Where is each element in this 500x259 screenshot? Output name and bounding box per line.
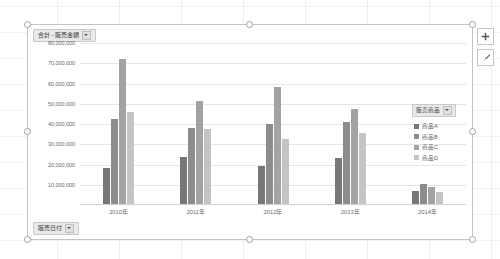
plot-canvas [80,43,466,205]
y-axis-tick-label: 40,000,000 [48,121,75,127]
y-axis-tick-label: 50,000,000 [48,101,75,107]
legend-field-label: 販売商品 [416,106,440,114]
bar-group [312,43,389,204]
legend-item[interactable]: 商品D [414,154,462,162]
bar[interactable] [103,168,110,204]
bar[interactable] [274,87,281,204]
bar[interactable] [343,122,350,205]
legend-swatch [414,145,419,150]
y-axis-tick-label: 70,000,000 [48,60,75,66]
plot-area: 10,000,00020,000,00030,000,00040,000,000… [33,43,466,217]
plus-icon [481,32,490,41]
y-axis-tick-label: 30,000,000 [48,141,75,147]
x-axis-tick-label: 2012年 [234,205,311,217]
bar[interactable] [204,129,211,204]
bar[interactable] [188,128,195,204]
bar[interactable] [111,119,118,204]
legend-swatch [414,124,419,129]
x-axis-tick-label: 2013年 [312,205,389,217]
bar[interactable] [436,192,443,204]
bar[interactable] [428,187,435,204]
y-axis-tick-label: 20,000,000 [48,162,75,168]
worksheet-canvas: 合計 - 販売金額 10,000,00020,000,00030,000,000… [0,0,500,259]
y-axis-labels: 10,000,00020,000,00030,000,00040,000,000… [33,43,78,205]
legend-item-label: 商品B [422,133,438,141]
legend: 販売商品 商品A商品B商品C商品D [412,98,462,164]
chevron-down-icon[interactable] [443,106,452,115]
legend-item-label: 商品A [422,122,438,130]
bar[interactable] [412,191,419,204]
chevron-down-icon[interactable] [82,31,91,40]
legend-item[interactable]: 商品A [414,122,462,130]
chart-elements-button[interactable] [477,28,494,45]
legend-items: 商品A商品B商品C商品D [412,122,462,162]
bar[interactable] [420,184,427,204]
chart-styles-button[interactable] [477,49,494,66]
chart-side-buttons [477,28,494,70]
bar-group [157,43,234,204]
bar[interactable] [119,59,126,204]
legend-item[interactable]: 商品B [414,133,462,141]
pivot-chart-object[interactable]: 合計 - 販売金額 10,000,00020,000,00030,000,000… [27,24,473,240]
axis-field-button[interactable]: 販売日付 [33,222,79,235]
bar-groups [80,43,466,204]
x-axis-tick-label: 2010年 [80,205,157,217]
legend-item[interactable]: 商品C [414,143,462,151]
y-axis-tick-label: 10,000,000 [48,182,75,188]
chevron-down-icon[interactable] [65,224,74,233]
bar[interactable] [266,124,273,205]
legend-item-label: 商品C [422,143,438,151]
bar-group [234,43,311,204]
value-field-label: 合計 - 販売金額 [38,31,79,40]
y-axis-tick-label: 60,000,000 [48,81,75,87]
bar[interactable] [335,158,342,204]
bar[interactable] [196,101,203,204]
x-axis-labels: 2010年2011年2012年2013年2014年 [80,205,466,217]
y-axis-tick-label: 80,000,000 [48,40,75,46]
bar-group [80,43,157,204]
bar[interactable] [282,139,289,204]
legend-field-button[interactable]: 販売商品 [412,104,456,117]
bar[interactable] [127,112,134,204]
brush-icon [481,53,491,63]
legend-swatch [414,134,419,139]
bar[interactable] [180,157,187,204]
legend-item-label: 商品D [422,154,438,162]
x-axis-tick-label: 2014年 [389,205,466,217]
x-axis-tick-label: 2011年 [157,205,234,217]
bar[interactable] [351,109,358,204]
bar[interactable] [359,133,366,204]
bar[interactable] [258,166,265,204]
axis-field-label: 販売日付 [38,224,62,233]
legend-swatch [414,155,419,160]
